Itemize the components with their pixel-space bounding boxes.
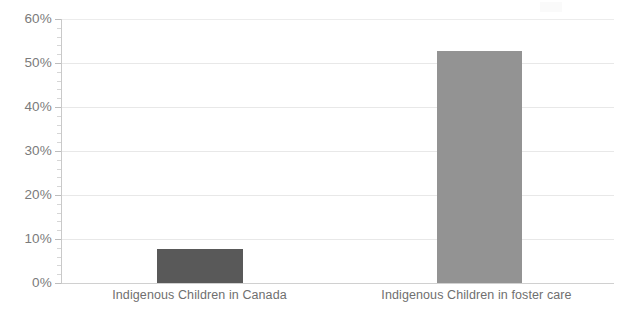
y-minor-tick — [57, 274, 61, 275]
gridline-30 — [61, 151, 614, 152]
y-minor-tick — [57, 230, 61, 231]
plot-area — [61, 19, 614, 283]
gridline-40 — [61, 107, 614, 108]
bar-indigenous-children-in-canada — [157, 249, 243, 283]
y-tick-60 — [55, 19, 61, 20]
y-tick-30 — [55, 151, 61, 152]
y-tick-label-50: 50% — [6, 56, 52, 70]
y-minor-tick — [57, 72, 61, 73]
y-minor-tick — [57, 265, 61, 266]
y-minor-tick — [57, 160, 61, 161]
y-minor-tick — [57, 142, 61, 143]
y-minor-tick — [57, 98, 61, 99]
y-tick-label-30: 30% — [6, 144, 52, 158]
bar-chart: 60% 50% 40% 30% 20% 10% 0% Indigenous Ch… — [0, 0, 631, 312]
x-axis-label-foster-care: Indigenous Children in foster care — [338, 289, 615, 303]
gridline-50 — [61, 63, 614, 64]
y-minor-tick — [57, 81, 61, 82]
y-minor-tick — [57, 177, 61, 178]
y-minor-tick — [57, 213, 61, 214]
gridline-0 — [61, 283, 614, 284]
y-tick-10 — [55, 239, 61, 240]
y-minor-tick — [57, 54, 61, 55]
y-tick-40 — [55, 107, 61, 108]
y-minor-tick — [57, 116, 61, 117]
gridline-10 — [61, 239, 614, 240]
y-minor-tick — [57, 257, 61, 258]
y-minor-tick — [57, 186, 61, 187]
y-tick-label-40: 40% — [6, 100, 52, 114]
y-minor-tick — [57, 169, 61, 170]
y-tick-label-20: 20% — [6, 188, 52, 202]
bar-indigenous-children-in-foster-care — [437, 51, 522, 283]
y-minor-tick — [57, 28, 61, 29]
y-minor-tick — [57, 248, 61, 249]
y-tick-0 — [55, 283, 61, 284]
render-artifact — [540, 2, 562, 12]
y-tick-50 — [55, 63, 61, 64]
y-minor-tick — [57, 221, 61, 222]
y-minor-tick — [57, 37, 61, 38]
gridline-20 — [61, 195, 614, 196]
y-minor-tick — [57, 133, 61, 134]
gridline-60 — [61, 19, 614, 20]
y-tick-label-0: 0% — [6, 276, 52, 290]
y-axis-line — [61, 19, 62, 284]
y-minor-tick — [57, 89, 61, 90]
y-minor-tick — [57, 204, 61, 205]
y-tick-20 — [55, 195, 61, 196]
x-axis-label-canada: Indigenous Children in Canada — [61, 289, 338, 303]
y-tick-label-10: 10% — [6, 232, 52, 246]
y-axis-tick-labels: 60% 50% 40% 30% 20% 10% 0% — [0, 0, 52, 312]
y-minor-tick — [57, 125, 61, 126]
y-minor-tick — [57, 45, 61, 46]
y-tick-label-60: 60% — [6, 12, 52, 26]
